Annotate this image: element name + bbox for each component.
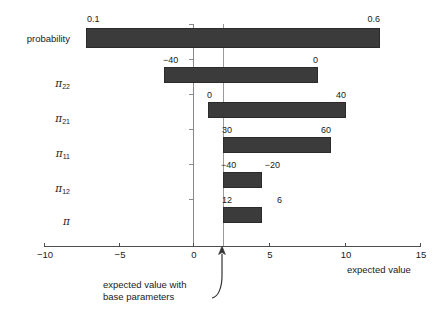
x-tick-label-15: 15 — [401, 249, 441, 260]
bar-pi21[interactable] — [208, 102, 346, 118]
zero-axis-line — [193, 24, 194, 246]
y-tick — [189, 129, 193, 130]
bar-pi11[interactable] — [223, 137, 331, 153]
bar-value-high-pi11: 60 — [281, 125, 331, 135]
tick-text: −10 — [37, 249, 53, 260]
bar-value-low-pi: 12 — [222, 195, 232, 205]
category-label-probability: probability — [0, 33, 70, 44]
pi-subscript: 21 — [62, 118, 70, 125]
y-tick — [189, 94, 193, 95]
x-axis-line — [44, 246, 421, 247]
value-text: −20 — [265, 160, 280, 170]
value-text: 0.1 — [87, 14, 100, 24]
bar-value-low-pi21: 0 — [207, 90, 212, 100]
value-text: −40 — [221, 160, 236, 170]
value-text: −40 — [163, 55, 178, 65]
x-tick-5 — [269, 243, 270, 247]
bar-value-low-pi11: 30 — [222, 125, 232, 135]
x-tick-neg10 — [44, 243, 45, 247]
value-text: 0 — [207, 90, 212, 100]
bar-value-high-pi22: 0 — [268, 55, 318, 65]
annotation-line-1: expected value with — [103, 279, 186, 291]
x-tick-label-5: 5 — [250, 249, 290, 260]
bar-pi22[interactable] — [164, 67, 318, 83]
category-label-pi12: π12 — [0, 183, 70, 195]
bar-value-low-probability: 0.1 — [87, 14, 100, 24]
x-tick-label-neg5: −5 — [100, 249, 140, 260]
bar-probability[interactable] — [86, 28, 380, 48]
tick-text: −5 — [115, 249, 126, 260]
bar-pi12[interactable] — [223, 172, 262, 188]
x-tick-label-0: 0 — [174, 249, 214, 260]
category-label-pi: π — [0, 216, 70, 227]
value-text: 40 — [336, 90, 346, 100]
bar-value-low-pi22: −40 — [163, 55, 178, 65]
tick-text: 5 — [267, 249, 272, 260]
value-text: 60 — [321, 125, 331, 135]
tick-text: 10 — [341, 249, 352, 260]
pi-subscript: 22 — [62, 83, 70, 90]
x-tick-neg5 — [119, 243, 120, 247]
annotation-line-2: base parameters — [103, 291, 186, 303]
tick-text: 0 — [191, 249, 196, 260]
bar-value-low-pi12: −40 — [221, 160, 236, 170]
value-text: 6 — [277, 195, 282, 205]
category-label-text: probability — [27, 33, 70, 44]
tornado-chart: probability π22 π21 π11 π12 π 0.1 — [0, 0, 446, 317]
y-tick — [189, 24, 193, 25]
value-text: 0 — [313, 55, 318, 65]
y-tick — [189, 164, 193, 165]
x-tick-0 — [193, 243, 194, 247]
value-text: 30 — [222, 125, 232, 135]
bar-value-high-pi21: 40 — [296, 90, 346, 100]
pi-subscript: 11 — [63, 153, 70, 160]
y-tick — [189, 199, 193, 200]
tick-text: 15 — [416, 249, 427, 260]
pi-symbol: π — [63, 215, 70, 227]
pi-subscript: 12 — [62, 188, 70, 195]
base-value-annotation: expected value with base parameters — [103, 279, 186, 303]
x-tick-label-10: 10 — [326, 249, 366, 260]
bar-value-high-pi: 6 — [246, 195, 282, 205]
x-tick-10 — [345, 243, 346, 247]
axis-title-text: expected value — [347, 264, 411, 275]
category-label-pi22: π22 — [0, 78, 70, 90]
bar-pi[interactable] — [223, 207, 262, 223]
value-text: 0.6 — [367, 14, 380, 24]
category-label-pi21: π21 — [0, 113, 70, 125]
value-text: 12 — [222, 195, 232, 205]
x-tick-label-neg10: −10 — [25, 249, 65, 260]
chart-page: probability π22 π21 π11 π12 π 0.1 — [0, 0, 446, 317]
bar-value-high-probability: 0.6 — [320, 14, 380, 24]
category-label-pi11: π11 — [0, 148, 70, 160]
y-tick — [189, 59, 193, 60]
pi-symbol: π — [56, 147, 63, 159]
x-axis-title: expected value — [347, 264, 411, 275]
x-tick-15 — [420, 243, 421, 247]
bar-value-high-pi12: −20 — [244, 160, 280, 170]
